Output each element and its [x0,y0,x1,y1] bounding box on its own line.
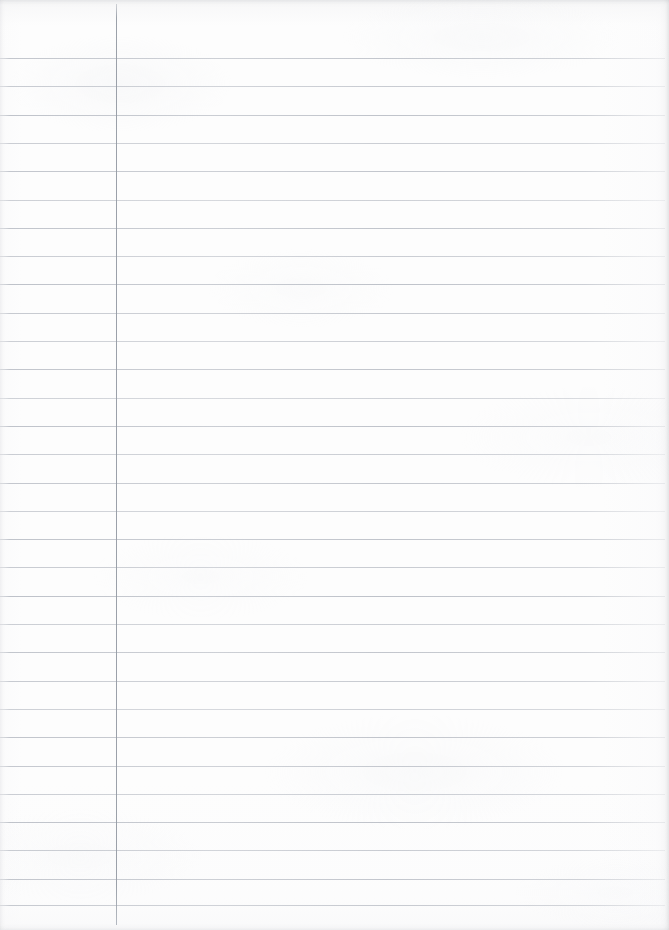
rule-line [0,652,665,653]
rule-line [0,737,665,738]
rule-line [0,143,665,144]
paper-scan-texture [0,0,669,930]
rule-line [0,511,665,512]
rule-line [0,483,665,484]
left-margin-rule-line [116,4,117,925]
rule-line [0,567,665,568]
rule-line [0,454,665,455]
rule-line [0,171,665,172]
paper-background [0,0,669,930]
rule-line [0,879,665,880]
rule-line [0,369,665,370]
rule-line [0,624,665,625]
rule-line [0,256,665,257]
rule-line [0,822,665,823]
rule-line [0,766,665,767]
scan-edge-vignette [0,0,669,930]
rule-line [0,709,665,710]
rule-line [0,86,665,87]
lined-paper-page [0,0,669,930]
rule-line [0,398,665,399]
rule-line [0,115,665,116]
rule-line [0,850,665,851]
rule-line [0,284,665,285]
rule-line [0,539,665,540]
rule-line [0,794,665,795]
rule-line [0,313,665,314]
rule-line [0,228,665,229]
rule-line [0,596,665,597]
rule-line [0,426,665,427]
rule-line [0,681,665,682]
rule-line [0,341,665,342]
rule-line [0,200,665,201]
rule-line [0,905,665,906]
rule-line [0,58,665,59]
